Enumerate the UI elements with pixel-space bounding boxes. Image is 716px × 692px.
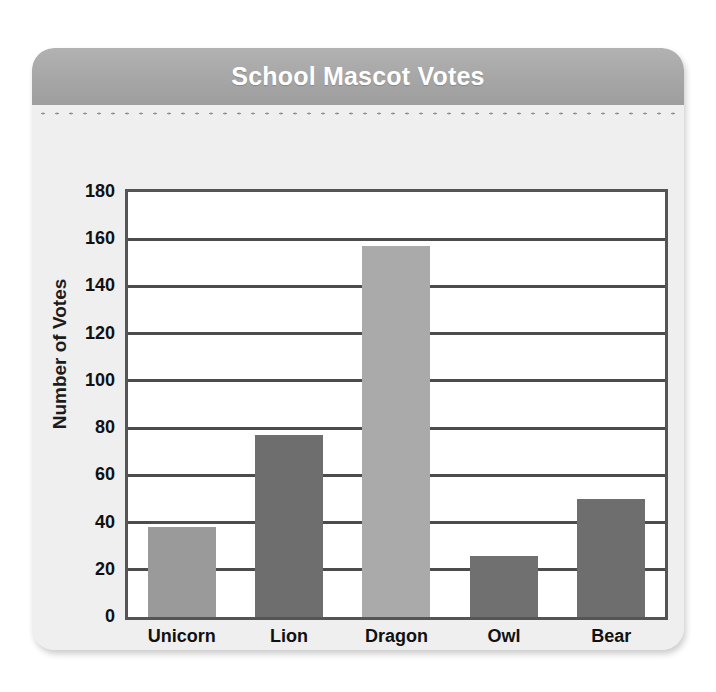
y-axis-tick-label: 100 (37, 370, 115, 391)
bar-lion (255, 435, 323, 617)
x-axis-tick-label: Bear (546, 626, 676, 647)
chart-title-bar: School Mascot Votes (32, 48, 684, 105)
bar-series (128, 192, 665, 617)
bar-bear (577, 499, 645, 617)
y-axis-tick-label: 140 (37, 275, 115, 296)
bar-unicorn (148, 527, 216, 617)
dotted-separator (32, 106, 684, 115)
y-axis-tick-label: 80 (37, 417, 115, 438)
y-axis-tick-label: 0 (37, 606, 115, 627)
chart-card: School Mascot Votes Number of Votes 1801… (32, 48, 684, 650)
bar-owl (470, 556, 538, 617)
chart-screenshot: School Mascot Votes Number of Votes 1801… (0, 0, 716, 692)
y-axis-tick-label: 160 (37, 228, 115, 249)
y-axis-tick-label: 40 (37, 512, 115, 533)
y-axis-tick-label: 120 (37, 323, 115, 344)
y-axis-tick-label: 20 (37, 559, 115, 580)
y-axis-title: Number of Votes (49, 274, 71, 434)
bar-dragon (362, 246, 430, 617)
chart-title: School Mascot Votes (231, 62, 484, 91)
y-axis-tick-label: 60 (37, 464, 115, 485)
y-axis-tick-label: 180 (37, 181, 115, 202)
chart-body: Number of Votes 180160140120100806040200… (32, 115, 684, 650)
plot-area (125, 189, 668, 620)
